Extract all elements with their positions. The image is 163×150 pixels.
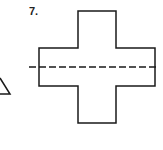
cross-figure: [0, 0, 163, 150]
cross-shape: [39, 11, 155, 123]
partial-triangle-shape: [0, 78, 10, 94]
